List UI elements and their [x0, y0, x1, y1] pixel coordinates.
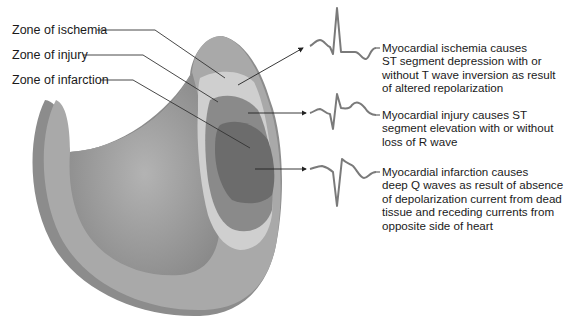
description-infarction: Myocardial infarction causes deep Q wave…	[382, 165, 564, 232]
description-injury: Myocardial injury causes ST segment elev…	[382, 108, 564, 148]
label-zone-ischemia: Zone of ischemia	[12, 23, 107, 37]
description-ischemia: Myocardial ischemia causes ST segment de…	[382, 41, 564, 95]
ecg-trace-ischemia	[310, 8, 376, 59]
description-ticks	[376, 48, 380, 172]
label-zone-infarction: Zone of infarction	[12, 73, 109, 87]
label-zone-injury: Zone of injury	[12, 48, 88, 62]
ecg-trace-infarction	[310, 159, 376, 206]
ecg-trace-injury	[310, 94, 376, 129]
